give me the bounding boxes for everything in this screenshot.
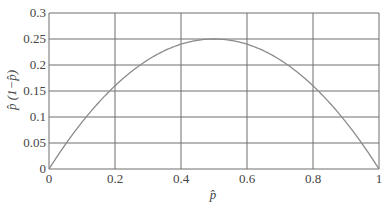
chart: 00.050.10.150.20.250.3 00.20.40.60.81 p̂… <box>0 0 388 207</box>
y-tick-label: 0.25 <box>23 31 46 46</box>
y-tick-label: 0.3 <box>30 5 46 20</box>
x-axis-label: p̂ <box>209 187 217 202</box>
y-tick-label: 0.1 <box>30 109 46 124</box>
x-tick-label: 0.4 <box>173 171 190 186</box>
y-tick-label: 0.15 <box>23 83 46 98</box>
x-tick-label: 1 <box>376 171 383 186</box>
x-tick-label: 0 <box>46 171 53 186</box>
y-axis-label: p̂ (1−p̂) <box>4 70 19 111</box>
y-tick-label: 0.2 <box>30 57 46 72</box>
series-line <box>49 39 379 169</box>
x-tick-label: 0.8 <box>305 171 321 186</box>
x-tick-labels: 00.20.40.60.81 <box>46 171 383 186</box>
data-curve <box>49 39 379 169</box>
y-tick-labels: 00.050.10.150.20.250.3 <box>23 5 46 176</box>
x-tick-label: 0.6 <box>239 171 256 186</box>
y-tick-label: 0.05 <box>23 135 46 150</box>
x-tick-label: 0.2 <box>107 171 123 186</box>
grid <box>49 13 379 169</box>
